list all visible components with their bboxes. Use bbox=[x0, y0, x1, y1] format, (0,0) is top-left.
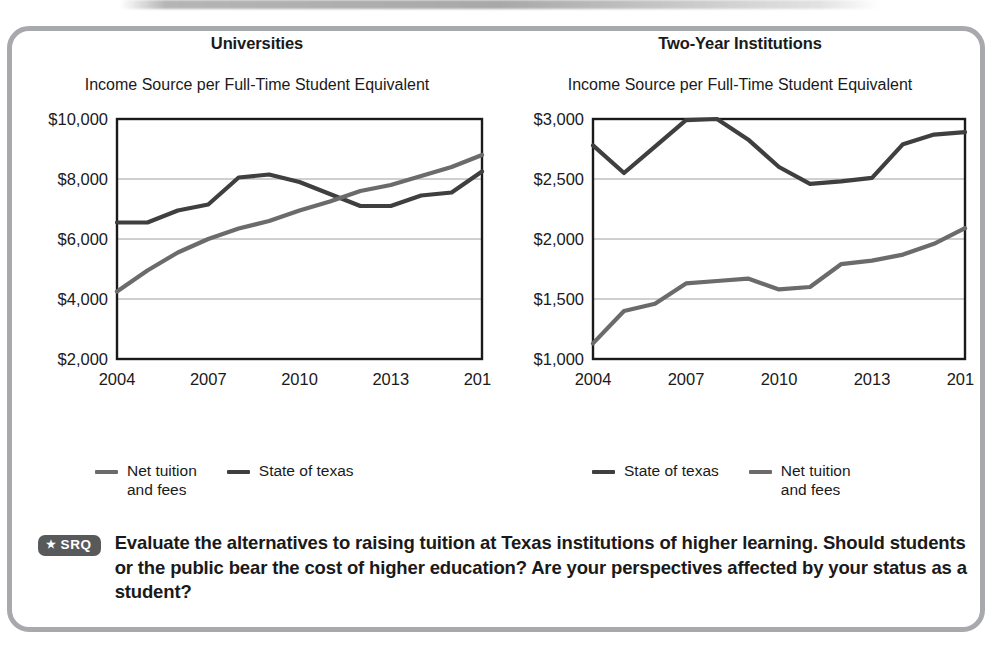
legend-item: Net tuition and fees bbox=[749, 462, 851, 500]
y-tick-label: $2,500 bbox=[534, 170, 584, 188]
legend-swatch-icon bbox=[592, 470, 615, 474]
legend-universities: Net tuition and feesState of texas bbox=[95, 462, 495, 500]
legend-label: State of texas bbox=[259, 462, 354, 481]
panel-title-universities: Universities bbox=[22, 34, 492, 53]
x-tick-label: 2013 bbox=[854, 370, 891, 388]
y-tick-label: $1,500 bbox=[534, 290, 584, 308]
legend-item: State of texas bbox=[592, 462, 719, 481]
x-tick-label: 2016 bbox=[947, 370, 975, 388]
x-tick-label: 2010 bbox=[761, 370, 798, 388]
legend-swatch-icon bbox=[227, 470, 250, 474]
legend-label: Net tuition and fees bbox=[127, 462, 197, 500]
x-tick-label: 2004 bbox=[99, 370, 136, 388]
panel-two-year-institutions: Two-Year Institutions Income Source per … bbox=[505, 34, 975, 399]
star-icon: ★ bbox=[46, 539, 57, 550]
panel-title-two-year-institutions: Two-Year Institutions bbox=[505, 34, 975, 53]
series-line bbox=[593, 229, 965, 344]
legend-swatch-icon bbox=[95, 470, 118, 474]
srq-prompt-block: ★SRQ Evaluate the alternatives to raisin… bbox=[38, 531, 968, 605]
x-tick-label: 2004 bbox=[575, 370, 612, 388]
x-tick-label: 2010 bbox=[281, 370, 318, 388]
x-tick-label: 2007 bbox=[190, 370, 227, 388]
panel-subtitle-universities: Income Source per Full-Time Student Equi… bbox=[22, 75, 492, 95]
panel-subtitle-two-year-institutions: Income Source per Full-Time Student Equi… bbox=[505, 75, 975, 95]
x-tick-label: 2013 bbox=[372, 370, 409, 388]
y-tick-label: $2,000 bbox=[58, 350, 108, 368]
figure-root: Universities Income Source per Full-Time… bbox=[0, 0, 998, 647]
legend-two-year-institutions: State of texasNet tuition and fees bbox=[592, 462, 992, 500]
legend-label: Net tuition and fees bbox=[781, 462, 851, 500]
chart-universities: $2,000$4,000$6,000$8,000$10,000200420072… bbox=[22, 109, 492, 399]
legend-item: Net tuition and fees bbox=[95, 462, 197, 500]
legend-item: State of texas bbox=[227, 462, 354, 481]
y-tick-label: $4,000 bbox=[58, 290, 108, 308]
legend-swatch-icon bbox=[749, 470, 772, 474]
y-tick-label: $10,000 bbox=[48, 110, 108, 128]
panel-universities: Universities Income Source per Full-Time… bbox=[22, 34, 492, 399]
srq-badge-label: SRQ bbox=[61, 538, 92, 552]
y-tick-label: $3,000 bbox=[534, 110, 584, 128]
series-line bbox=[593, 119, 965, 184]
x-tick-label: 2016 bbox=[464, 370, 492, 388]
x-tick-label: 2007 bbox=[668, 370, 705, 388]
series-line bbox=[117, 155, 482, 292]
y-tick-label: $6,000 bbox=[58, 230, 108, 248]
page-edge-artifact bbox=[120, 0, 880, 9]
y-tick-label: $8,000 bbox=[58, 170, 108, 188]
chart-two-year-institutions: $1,000$1,500$2,000$2,500$3,0002004200720… bbox=[505, 109, 975, 399]
y-tick-label: $2,000 bbox=[534, 230, 584, 248]
legend-label: State of texas bbox=[624, 462, 719, 481]
srq-badge: ★SRQ bbox=[38, 535, 101, 556]
y-tick-label: $1,000 bbox=[534, 350, 584, 368]
srq-prompt-text: Evaluate the alternatives to raising tui… bbox=[115, 531, 968, 605]
